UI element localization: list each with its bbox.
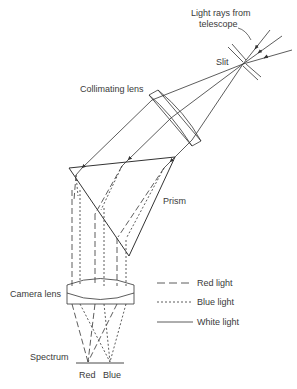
- incoming-rays: [243, 30, 292, 64]
- white-rays-parallel: [76, 100, 192, 175]
- camera-lens: [67, 279, 134, 305]
- legend-lines: [157, 283, 193, 322]
- blue-rays-vertical: [80, 190, 126, 286]
- legend-white-label: White light: [197, 317, 239, 327]
- prism-label: Prism: [163, 196, 186, 206]
- red-label: Red: [79, 370, 96, 380]
- red-rays-converging: [72, 304, 117, 362]
- red-rays-vertical: [72, 190, 117, 286]
- slit-label: Slit: [216, 57, 229, 67]
- spectrum-label: Spectrum: [30, 352, 69, 362]
- legend-blue-label: Blue light: [197, 297, 234, 307]
- telescope-label-line2: telescope: [199, 19, 238, 29]
- collimating-lens-label: Collimating lens: [80, 84, 144, 94]
- blue-rays-converging: [80, 304, 126, 362]
- telescope-label-line1: Light rays from: [191, 8, 251, 18]
- spectrograph-diagram: [0, 0, 297, 389]
- white-rays-diverging: [152, 64, 243, 140]
- prism: [69, 157, 175, 256]
- camera-lens-label: Camera lens: [10, 289, 61, 299]
- blue-label: Blue: [103, 370, 121, 380]
- blue-rays-prism: [76, 166, 164, 237]
- telescope-leader: [238, 28, 251, 40]
- red-rays-prism: [74, 166, 164, 237]
- legend-red-label: Red light: [197, 278, 233, 288]
